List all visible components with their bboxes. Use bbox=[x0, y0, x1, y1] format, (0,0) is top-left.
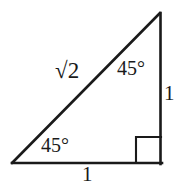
side-length-label-bottom: 1 bbox=[82, 164, 93, 185]
right-angle-square-icon bbox=[136, 137, 161, 162]
angle-label-bottom: 45° bbox=[41, 135, 69, 155]
hypotenuse-value: 2 bbox=[68, 58, 80, 83]
triangle-side-hypotenuse bbox=[12, 13, 160, 163]
hypotenuse-length-label: √2 bbox=[54, 59, 79, 82]
sqrt-icon: √ bbox=[54, 59, 68, 82]
triangle-drawing bbox=[0, 0, 175, 187]
geometry-figure-canvas: √2 45° 45° 1 1 bbox=[0, 0, 175, 187]
angle-label-top: 45° bbox=[117, 58, 145, 78]
side-length-label-right: 1 bbox=[164, 83, 175, 104]
